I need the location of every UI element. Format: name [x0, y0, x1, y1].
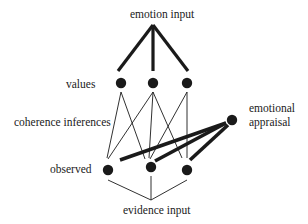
emotion-input-label: emotion input — [130, 8, 194, 21]
coherence-network-diagram: emotion input values coherence inference… — [0, 0, 308, 224]
emotional-appraisal-node — [227, 115, 237, 125]
observed-node-1 — [103, 165, 113, 175]
observed-node-3 — [182, 165, 192, 175]
appraisal-edges — [120, 123, 228, 161]
observed-label: observed — [50, 163, 92, 176]
evidence-input-edges — [108, 176, 187, 200]
evidence-input-label: evidence input — [123, 204, 190, 217]
value-node-3 — [182, 78, 192, 88]
value-node-1 — [116, 78, 126, 88]
emotion-input-edges — [118, 25, 188, 71]
values-label: values — [66, 78, 95, 91]
coherence-inferences-label: coherence inferences — [14, 116, 111, 129]
observed-node-2 — [146, 162, 156, 172]
appraisal-label: appraisal — [249, 116, 291, 129]
value-node-2 — [148, 78, 158, 88]
emotional-label: emotional — [249, 102, 295, 115]
